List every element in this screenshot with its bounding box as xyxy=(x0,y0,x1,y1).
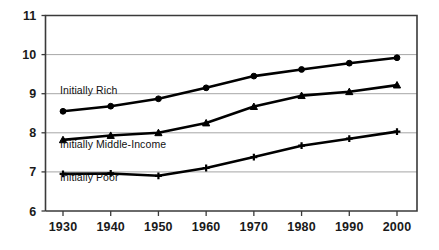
data-point xyxy=(203,85,209,91)
series-label-initially-rich: Initially Rich xyxy=(60,84,117,96)
data-point xyxy=(156,96,162,102)
x-tick-label: 1980 xyxy=(287,220,316,234)
x-tick-label: 2000 xyxy=(383,220,412,234)
y-tick-label: 6 xyxy=(29,205,36,219)
y-tick-label: 10 xyxy=(22,48,36,62)
series-label-initially-middle-income: Initially Middle-Income xyxy=(60,138,166,150)
data-point xyxy=(60,108,66,114)
y-tick-label: 7 xyxy=(29,165,36,179)
y-tick-label: 11 xyxy=(23,9,37,23)
x-tick-label: 1950 xyxy=(144,220,173,234)
series-label-initially-poor: Initially Poor xyxy=(60,171,119,183)
data-point xyxy=(299,67,305,73)
data-point xyxy=(108,103,114,109)
x-tick-label: 1930 xyxy=(49,220,78,234)
x-tick-label: 1940 xyxy=(96,220,125,234)
data-point xyxy=(394,55,400,61)
x-tick-label: 1970 xyxy=(240,220,269,234)
line-chart: 67891011 1930194019501960197019801990200… xyxy=(0,0,439,250)
data-point xyxy=(251,73,257,79)
y-tick-label: 8 xyxy=(29,126,36,140)
chart-background xyxy=(0,0,439,250)
x-tick-label: 1990 xyxy=(335,220,364,234)
y-tick-label: 9 xyxy=(29,87,36,101)
chart-canvas: 67891011 1930194019501960197019801990200… xyxy=(0,0,439,250)
data-point xyxy=(346,60,352,66)
x-tick-label: 1960 xyxy=(192,220,221,234)
